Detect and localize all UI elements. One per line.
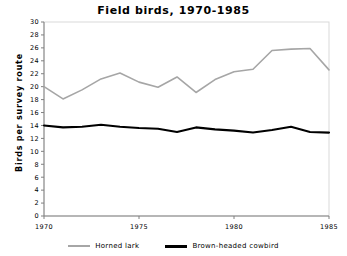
y-tick-label: 12 [30, 135, 39, 143]
y-tick-label: 14 [30, 122, 39, 130]
chart-container: Field birds, 1970-1985 Birds per survey … [0, 0, 347, 256]
y-tick-label: 30 [30, 18, 39, 26]
legend-entry-brown-headed-cowbird: Brown-headed cowbird [165, 242, 278, 250]
legend-label-horned-lark: Horned lark [95, 242, 139, 250]
x-tick-label: 1970 [35, 223, 53, 231]
plot-frame [44, 22, 329, 216]
y-tick-label: 0 [34, 212, 39, 220]
x-tick-label: 1985 [320, 223, 338, 231]
chart-legend: Horned lark Brown-headed cowbird [0, 242, 347, 250]
legend-swatch-horned-lark [68, 245, 90, 247]
y-tick-label: 28 [30, 31, 39, 39]
x-tick-label: 1980 [225, 223, 243, 231]
y-tick-label: 4 [34, 186, 39, 194]
y-tick-label: 2 [34, 199, 39, 207]
series-line-horned-lark [44, 49, 329, 99]
legend-swatch-brown-headed-cowbird [165, 245, 187, 248]
legend-entry-horned-lark: Horned lark [68, 242, 139, 250]
y-tick-label: 18 [30, 96, 39, 104]
y-tick-label: 26 [30, 44, 39, 52]
y-tick-label: 6 [34, 174, 39, 182]
series-line-brown-headed-cowbird [44, 125, 329, 133]
y-tick-label: 8 [34, 161, 39, 169]
y-tick-label: 20 [30, 83, 39, 91]
y-tick-label: 24 [30, 57, 39, 65]
legend-label-brown-headed-cowbird: Brown-headed cowbird [192, 242, 278, 250]
y-tick-label: 16 [30, 109, 39, 117]
y-tick-label: 22 [30, 70, 39, 78]
x-tick-label: 1975 [130, 223, 148, 231]
y-tick-label: 10 [30, 148, 39, 156]
plot-area: 0246810121416182022242628301970197519801… [0, 0, 347, 256]
